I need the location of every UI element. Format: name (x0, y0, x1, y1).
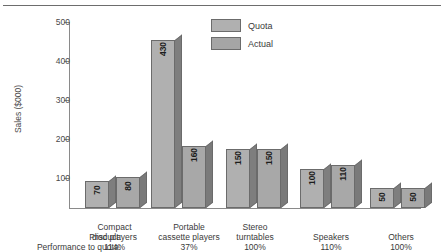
y-tick-200: 200 (25, 135, 70, 144)
bar-side-face (206, 141, 213, 208)
bar-value-label: 160 (189, 148, 199, 162)
legend-swatch-quota-icon (211, 19, 241, 32)
bar-side-face (281, 144, 288, 208)
bar-face (151, 40, 175, 208)
bar-chart-figure: Sales ($000) 500 400 300 200 100 70 (0, 0, 444, 252)
bar-actual-stereo-turntables: 150 (257, 149, 281, 208)
bar-side-face (324, 164, 331, 208)
bar-side-face (109, 176, 116, 208)
y-tick-label-300: 300 (40, 96, 70, 105)
x-axis-line (69, 208, 421, 209)
category-name-line2: turntables (216, 232, 294, 242)
bar-quota-others: 50 (370, 188, 394, 208)
y-tick-label-500: 500 (40, 18, 70, 27)
bar-value-label: 50 (408, 192, 418, 201)
category-performance: 110% (292, 242, 370, 252)
legend-label-actual: Actual (248, 39, 273, 49)
bar-value-label: 70 (92, 185, 102, 194)
category-column-others: Others 100% (362, 232, 440, 252)
category-column-stereo-turntables: Stereo turntables 100% (216, 222, 294, 252)
bar-side-face (425, 183, 432, 208)
bar-value-label: 150 (233, 151, 243, 165)
y-tick-label-200: 200 (40, 135, 70, 144)
bar-quota-speakers: 100 (300, 169, 324, 208)
y-tick-400: 400 (25, 57, 70, 66)
legend-item-actual: Actual (211, 37, 331, 50)
category-column-speakers: Speakers 110% (292, 232, 370, 252)
bar-quota-stereo-turntables: 150 (226, 149, 250, 208)
bar-quota-compact-disc-players: 70 (85, 181, 109, 208)
y-tick-label-100: 100 (40, 174, 70, 183)
bar-side-face (394, 183, 401, 208)
legend-item-quota: Quota (211, 19, 331, 32)
category-table: Product: Performance to quota: Compact d… (0, 210, 444, 252)
bar-side-face (175, 35, 182, 208)
bar-value-label: 150 (264, 151, 274, 165)
legend-label-quota: Quota (248, 21, 273, 31)
bar-value-label: 50 (377, 192, 387, 201)
category-performance: 100% (362, 242, 440, 252)
y-axis-title: Sales ($000) (13, 59, 23, 159)
bar-value-label: 80 (123, 181, 133, 190)
bar-value-label: 430 (158, 42, 168, 56)
category-name-line1: Stereo (216, 222, 294, 232)
bar-side-face (250, 144, 257, 208)
category-name-line1: Others (362, 232, 440, 242)
bar-actual-portable-cassette-players: 160 (182, 146, 206, 208)
chart-legend: Quota Actual (211, 19, 331, 55)
legend-swatch-actual-icon (211, 37, 241, 50)
y-tick-300: 300 (25, 96, 70, 105)
bar-actual-compact-disc-players: 80 (116, 177, 140, 208)
bar-side-face (140, 172, 147, 208)
category-name-line1: Speakers (292, 232, 370, 242)
bar-quota-portable-cassette-players: 430 (151, 40, 175, 208)
category-performance: 100% (216, 242, 294, 252)
bar-side-face (355, 160, 362, 208)
y-tick-100: 100 (25, 174, 70, 183)
bar-value-label: 100 (307, 171, 317, 185)
y-tick-500: 500 (25, 18, 70, 27)
bar-actual-others: 50 (401, 188, 425, 208)
bar-value-label: 110 (338, 167, 348, 181)
bar-actual-speakers: 110 (331, 165, 355, 208)
y-tick-label-400: 400 (40, 57, 70, 66)
